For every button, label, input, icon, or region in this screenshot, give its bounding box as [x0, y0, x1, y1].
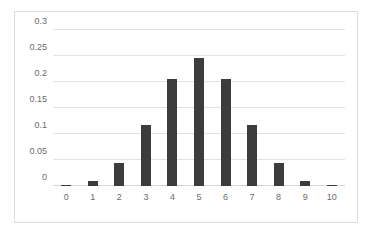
x-axis-tick-label: 9 [303, 193, 308, 202]
bar [194, 58, 204, 186]
x-axis-tick-label: 4 [170, 193, 175, 202]
bar-slot: 6 [213, 30, 239, 186]
x-axis-tick-label: 10 [327, 193, 337, 202]
bar-slot: 8 [266, 30, 292, 186]
bar-slot: 2 [106, 30, 132, 186]
y-axis-tick-label: 0 [42, 173, 47, 182]
bar [247, 125, 257, 186]
x-axis-tick-label: 1 [90, 193, 95, 202]
y-axis-tick-label: 0.25 [29, 43, 47, 52]
bar [61, 185, 71, 186]
x-axis-tick-label: 6 [223, 193, 228, 202]
bar-slot: 10 [319, 30, 345, 186]
x-axis-tick-label: 0 [64, 193, 69, 202]
bar-slot: 5 [186, 30, 212, 186]
y-axis-tick-label: 0.05 [29, 147, 47, 156]
bar [141, 125, 151, 186]
bar [167, 79, 177, 186]
y-axis-tick-label: 0.2 [34, 69, 47, 78]
bar-slot: 4 [159, 30, 185, 186]
bar-slot: 7 [239, 30, 265, 186]
bars-layer: 012345678910 [53, 30, 345, 186]
bar [221, 79, 231, 186]
bar [327, 185, 337, 186]
x-axis-tick-label: 8 [276, 193, 281, 202]
bar [300, 181, 310, 186]
bar-slot: 9 [292, 30, 318, 186]
bar [274, 163, 284, 186]
x-axis-tick-label: 3 [143, 193, 148, 202]
bar [88, 181, 98, 186]
bar-slot: 3 [133, 30, 159, 186]
x-axis-tick-label: 2 [117, 193, 122, 202]
plot-area: 00.050.10.150.20.250.3 012345678910 [53, 30, 345, 186]
x-axis-tick-label: 5 [196, 193, 201, 202]
bar-slot: 1 [80, 30, 106, 186]
chart-figure: 00.050.10.150.20.250.3 012345678910 [14, 11, 358, 223]
x-axis-tick-label: 7 [250, 193, 255, 202]
bar-slot: 0 [53, 30, 79, 186]
y-axis-tick-label: 0.1 [34, 121, 47, 130]
y-axis-tick-label: 0.15 [29, 95, 47, 104]
bar [114, 163, 124, 186]
y-axis-tick-label: 0.3 [34, 17, 47, 26]
